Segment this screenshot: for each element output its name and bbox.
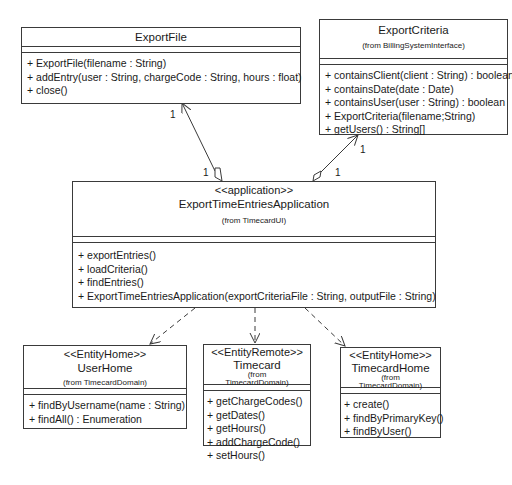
stereotype: <<EntityHome>>	[24, 348, 186, 361]
operations-compartment: + create() + findByPrimaryKey() + findBy…	[341, 394, 440, 442]
class-userhome[interactable]: <<EntityHome>> UserHome (from TimecardDo…	[23, 345, 187, 429]
operation: + addChargeCode()	[207, 436, 305, 450]
package-origin: (from TimecardDomain)	[24, 378, 186, 388]
attributes-compartment	[24, 388, 186, 395]
attributes-compartment	[320, 58, 507, 65]
class-exportfile[interactable]: ExportFile + ExportFile(filename : Strin…	[21, 27, 301, 104]
operation: + findEntries()	[78, 276, 430, 290]
operation: + ExportTimeEntriesApplication(exportCri…	[78, 290, 430, 304]
operation: + loadCriteria()	[78, 263, 430, 277]
package-origin: (from BillingSystemInterface)	[320, 41, 507, 51]
operation: + ExportCriteria(filename;String)	[325, 110, 502, 124]
multiplicity-app-exportfile-end: 1	[203, 168, 209, 178]
operations-compartment: + findByUsername(name : String) + findAl…	[24, 395, 186, 429]
operation: + setHours()	[207, 449, 305, 463]
class-name: UserHome	[24, 361, 186, 375]
dependency-userhome	[150, 308, 195, 344]
operation: + containsDate(date : Date)	[325, 83, 502, 97]
operation: + ExportFile(filename : String)	[27, 57, 295, 71]
operation: + containsUser(user : String) : boolean	[325, 96, 502, 110]
operation: + findByPrimaryKey()	[344, 412, 435, 426]
class-name: ExportTimeEntriesApplication	[73, 197, 435, 211]
multiplicity-exportfile-end: 1	[170, 110, 176, 120]
package-origin: (from TimecardUI)	[73, 216, 435, 226]
class-exporttimeentriesapplication[interactable]: <<application>> ExportTimeEntriesApplica…	[72, 181, 436, 308]
operation: + findByUser()	[344, 425, 435, 439]
class-timecardhome[interactable]: <<EntityHome>> TimecardHome (from Timeca…	[340, 347, 441, 438]
multiplicity-exportcriteria-end: 1	[360, 145, 366, 155]
operation: + findByUsername(name : String)	[29, 399, 181, 413]
operation: + close()	[27, 84, 295, 98]
class-exportcriteria[interactable]: ExportCriteria (from BillingSystemInterf…	[319, 19, 508, 135]
stereotype: <<EntityHome>>	[341, 349, 440, 362]
operation: + findAll() : Enumeration	[29, 413, 181, 427]
association-app-exportfile	[182, 103, 222, 181]
operation: + getUsers() : String[]	[325, 123, 502, 137]
stereotype: <<EntityRemote>>	[204, 346, 310, 359]
multiplicity-app-exportcriteria-end: 1	[335, 168, 341, 178]
aggregation-diamond-icon	[215, 168, 222, 181]
class-name: ExportFile	[22, 30, 300, 44]
operations-compartment: + exportEntries() + loadCriteria() + fin…	[73, 243, 435, 306]
operation: + containsClient(client : String) : bool…	[325, 69, 502, 83]
operation: + getHours()	[207, 422, 305, 436]
operation: + getDates()	[207, 409, 305, 423]
operation: + getChargeCodes()	[207, 395, 305, 409]
aggregation-diamond-icon	[313, 171, 321, 181]
operation: + create()	[344, 398, 435, 412]
operations-compartment: + getChargeCodes() + getDates() + getHou…	[204, 391, 310, 466]
attributes-compartment	[73, 236, 435, 243]
dependency-timecardhome	[305, 308, 345, 346]
operations-compartment: + ExportFile(filename : String) + addEnt…	[22, 53, 300, 101]
class-name: ExportCriteria	[320, 23, 507, 37]
class-timecard[interactable]: <<EntityRemote>> Timecard (from Timecard…	[203, 344, 311, 446]
stereotype: <<application>>	[73, 184, 435, 197]
operation: + exportEntries()	[78, 249, 430, 263]
operations-compartment: + containsClient(client : String) : bool…	[320, 65, 507, 140]
attributes-compartment	[22, 46, 300, 53]
operation: + addEntry(user : String, chargeCode : S…	[27, 71, 295, 85]
